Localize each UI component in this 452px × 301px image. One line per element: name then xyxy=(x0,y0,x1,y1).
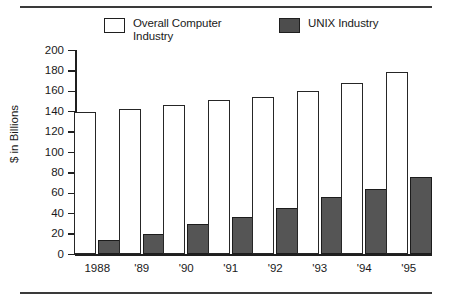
chart-figure: Overall Computer Industry UNIX Industry … xyxy=(0,0,452,301)
y-axis-tick-label: 180 xyxy=(24,65,64,77)
y-axis-tick-label: 80 xyxy=(24,167,64,179)
bar-overall-computer-industry xyxy=(74,112,96,255)
y-axis-tick-label: 200 xyxy=(24,45,64,57)
x-axis-tick-label: '91 xyxy=(208,262,254,274)
plot-area: $ in Billions 02040608010012014016018020… xyxy=(0,0,452,301)
bar-unix-industry xyxy=(232,217,254,255)
bar-overall-computer-industry xyxy=(341,83,363,254)
y-axis-tick-label: 160 xyxy=(24,85,64,97)
bar-unix-industry xyxy=(187,224,209,255)
bar-unix-industry xyxy=(365,189,387,254)
y-axis-tick-label: 20 xyxy=(24,228,64,240)
y-axis-tick-label: 100 xyxy=(24,147,64,159)
x-axis-tick-label: '93 xyxy=(297,262,343,274)
bar-overall-computer-industry xyxy=(386,72,408,255)
y-axis-tick-label: 140 xyxy=(24,106,64,118)
y-axis-tick-label: 40 xyxy=(24,208,64,220)
bar-overall-computer-industry xyxy=(297,91,319,254)
y-axis-title: $ in Billions xyxy=(8,89,20,179)
bar-unix-industry xyxy=(98,240,120,254)
x-axis-tick-label: '89 xyxy=(119,262,165,274)
y-axis-tick xyxy=(68,50,76,51)
y-axis-tick-label: 0 xyxy=(24,249,64,261)
x-axis-tick-label: '94 xyxy=(341,262,387,274)
bar-overall-computer-industry xyxy=(163,105,185,255)
y-axis-tick xyxy=(68,91,76,92)
bar-unix-industry xyxy=(321,197,343,254)
x-axis-tick-label: '92 xyxy=(252,262,298,274)
y-axis-tick-label: 60 xyxy=(24,187,64,199)
bar-overall-computer-industry xyxy=(208,100,230,254)
x-axis-tick-label: '90 xyxy=(163,262,209,274)
bar-overall-computer-industry xyxy=(252,97,274,254)
y-axis-tick-label: 120 xyxy=(24,126,64,138)
x-axis-tick-label: 1988 xyxy=(74,262,120,274)
x-axis-tick-label: '95 xyxy=(386,262,432,274)
bar-unix-industry xyxy=(410,177,432,255)
y-axis-tick xyxy=(68,70,76,71)
bar-unix-industry xyxy=(143,234,165,254)
bar-overall-computer-industry xyxy=(119,109,141,255)
bar-unix-industry xyxy=(276,208,298,255)
